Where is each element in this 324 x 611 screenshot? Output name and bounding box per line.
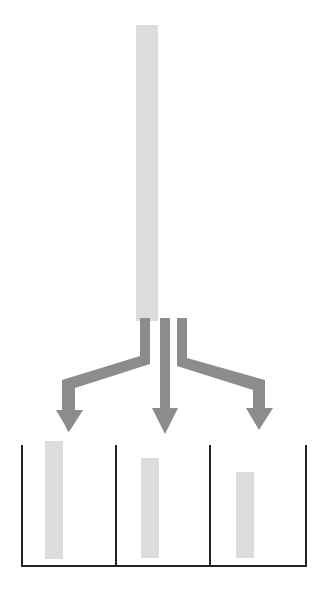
group-3-highlight [236, 472, 254, 558]
arrowhead-1 [56, 410, 83, 432]
arrowhead-3 [246, 408, 273, 430]
arrow-to-group-2 [160, 318, 170, 410]
group-boxes [21, 445, 307, 566]
arrow-to-group-3 [177, 318, 265, 410]
group-1-highlight [45, 441, 63, 559]
group-2-highlight [141, 458, 159, 558]
arrowhead-2 [152, 408, 178, 434]
